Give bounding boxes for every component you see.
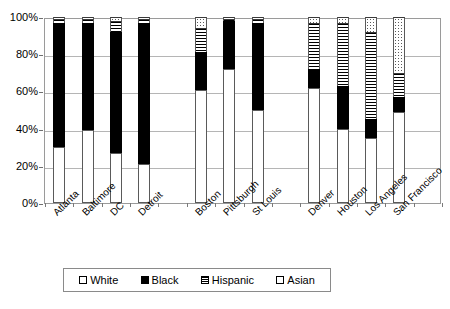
x-axis-tick xyxy=(442,203,443,207)
legend-label: White xyxy=(90,275,118,286)
bar-group[interactable] xyxy=(308,19,320,203)
stacked-bar[interactable] xyxy=(223,19,235,203)
x-axis-tick xyxy=(357,203,358,207)
bar-segment-black[interactable] xyxy=(252,23,264,110)
x-axis-tick xyxy=(244,203,245,207)
legend-item-asian[interactable]: Asian xyxy=(276,275,315,286)
bar-segment-hispanic[interactable] xyxy=(53,19,65,23)
bar-segment-white[interactable] xyxy=(82,130,94,203)
bar-group[interactable] xyxy=(223,19,235,203)
stacked-bar[interactable] xyxy=(138,19,150,203)
bar-segment-asian[interactable] xyxy=(110,17,122,21)
bar-segment-black[interactable] xyxy=(393,97,405,112)
bar-segment-hispanic[interactable] xyxy=(337,23,349,86)
x-axis-tick xyxy=(45,203,46,207)
bar-segment-white[interactable] xyxy=(110,153,122,203)
bar-segment-hispanic[interactable] xyxy=(223,19,235,21)
bar-segment-asian[interactable] xyxy=(53,17,65,19)
bar-segment-black[interactable] xyxy=(82,23,94,131)
bar-group[interactable] xyxy=(195,19,207,203)
bar-group[interactable] xyxy=(82,19,94,203)
bar-segment-hispanic[interactable] xyxy=(138,19,150,23)
bar-group[interactable] xyxy=(252,19,264,203)
bar-segment-asian[interactable] xyxy=(365,17,377,32)
stacked-bar[interactable] xyxy=(308,19,320,203)
stacked-bar[interactable] xyxy=(82,19,94,203)
x-axis-tick xyxy=(73,203,74,207)
stacked-bar[interactable] xyxy=(195,19,207,203)
y-axis-tick-label: 100% xyxy=(0,12,38,23)
bar-segment-hispanic[interactable] xyxy=(393,73,405,97)
y-axis-tick-mark xyxy=(39,92,43,93)
bar-segment-asian[interactable] xyxy=(223,17,235,19)
stacked-bar[interactable] xyxy=(252,19,264,203)
bar-segment-black[interactable] xyxy=(337,86,349,129)
stacked-bar[interactable] xyxy=(365,19,377,203)
legend-label: Asian xyxy=(287,275,315,286)
y-axis-tick-label: 20% xyxy=(0,161,38,172)
legend-item-white[interactable]: White xyxy=(79,275,118,286)
bar-segment-white[interactable] xyxy=(223,69,235,203)
legend-item-black[interactable]: Black xyxy=(141,275,179,286)
bar-segment-hispanic[interactable] xyxy=(110,21,122,32)
bar-group[interactable] xyxy=(138,19,150,203)
y-axis-tick-label: 80% xyxy=(0,49,38,60)
x-axis-tick xyxy=(385,203,386,207)
y-axis-tick-mark xyxy=(39,18,43,19)
stacked-bar[interactable] xyxy=(110,19,122,203)
y-axis-tick-label: 0% xyxy=(0,198,38,209)
bar-group[interactable] xyxy=(393,19,405,203)
x-axis-tick xyxy=(215,203,216,207)
bar-segment-asian[interactable] xyxy=(308,17,320,23)
bar-segment-hispanic[interactable] xyxy=(308,23,320,70)
bar-segment-white[interactable] xyxy=(308,88,320,203)
bar-segment-hispanic[interactable] xyxy=(365,32,377,119)
bar-segment-hispanic[interactable] xyxy=(195,28,207,52)
bar-segment-white[interactable] xyxy=(195,90,207,203)
bar-segment-asian[interactable] xyxy=(195,17,207,28)
y-axis-tick-label: 60% xyxy=(0,86,38,97)
bar-segment-black[interactable] xyxy=(138,23,150,164)
bar-group[interactable] xyxy=(365,19,377,203)
x-axis-tick xyxy=(300,203,301,207)
bar-segment-hispanic[interactable] xyxy=(82,19,94,23)
bar-segment-white[interactable] xyxy=(337,129,349,203)
x-axis-tick xyxy=(158,203,159,207)
x-axis-tick xyxy=(272,203,273,207)
y-axis-tick-label: 40% xyxy=(0,124,38,135)
white-swatch-icon xyxy=(79,276,87,284)
bar-segment-black[interactable] xyxy=(365,119,377,138)
bar-segment-asian[interactable] xyxy=(138,17,150,19)
bar-group[interactable] xyxy=(53,19,65,203)
bar-segment-black[interactable] xyxy=(223,21,235,69)
legend-label: Hispanic xyxy=(212,275,254,286)
bar-segment-black[interactable] xyxy=(195,52,207,89)
bar-group[interactable] xyxy=(337,19,349,203)
x-axis-tick xyxy=(187,203,188,207)
bar-segment-hispanic[interactable] xyxy=(252,19,264,23)
bar-segment-asian[interactable] xyxy=(337,17,349,23)
stacked-bar-chart: 0%20%40%60%80%100% AtlantaBaltimoreDCDet… xyxy=(0,0,450,309)
bar-segment-white[interactable] xyxy=(252,110,264,203)
bar-segment-black[interactable] xyxy=(110,32,122,153)
bar-segment-asian[interactable] xyxy=(393,17,405,73)
bar-segment-white[interactable] xyxy=(53,147,65,203)
bar-segment-white[interactable] xyxy=(138,164,150,203)
y-axis-tick-mark xyxy=(39,204,43,205)
stacked-bar[interactable] xyxy=(337,19,349,203)
bar-segment-black[interactable] xyxy=(53,23,65,148)
legend-item-hispanic[interactable]: Hispanic xyxy=(201,275,254,286)
x-axis-tick xyxy=(414,203,415,207)
bar-segment-asian[interactable] xyxy=(82,17,94,19)
bar-segment-asian[interactable] xyxy=(252,17,264,19)
bar-segment-white[interactable] xyxy=(393,112,405,203)
hispanic-swatch-icon xyxy=(201,276,209,284)
bar-segment-black[interactable] xyxy=(308,69,320,88)
bar-segment-white[interactable] xyxy=(365,138,377,203)
black-swatch-icon xyxy=(141,276,149,284)
asian-swatch-icon xyxy=(276,276,284,284)
stacked-bar[interactable] xyxy=(53,19,65,203)
stacked-bar[interactable] xyxy=(393,19,405,203)
bar-group[interactable] xyxy=(110,19,122,203)
y-axis-tick-mark xyxy=(39,130,43,131)
